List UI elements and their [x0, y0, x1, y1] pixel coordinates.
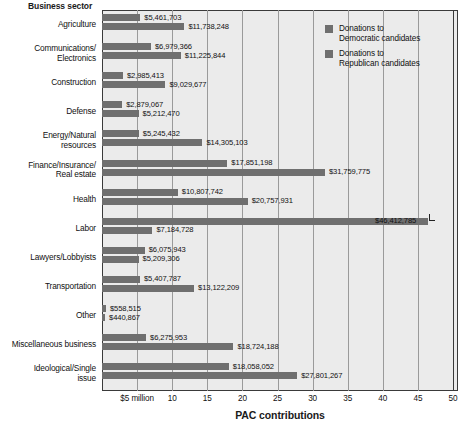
- chart-row: Defense$2,879,067$5,212,470: [0, 100, 466, 129]
- x-tick-label: 30: [308, 394, 317, 403]
- bar-value-label: $2,985,413: [127, 72, 164, 80]
- bar-value-label: $20,757,931: [252, 197, 293, 205]
- bar-democratic: [102, 334, 146, 341]
- bar-value-label: $18,724,188: [237, 343, 278, 351]
- bar-value-label: $18,058,052: [233, 363, 274, 371]
- bar-value-label: $5,212,470: [143, 110, 180, 118]
- bar-republican: [102, 343, 233, 350]
- chart-row: Miscellaneous business$6,275,953$18,724,…: [0, 333, 466, 362]
- bar-value-label: $46,412,785: [375, 217, 416, 225]
- x-tick-label: 40: [378, 394, 387, 403]
- bar-value-label: $31,759,775: [329, 168, 370, 176]
- chart-row: Other$558,515$440,867: [0, 304, 466, 333]
- bar-value-label: $27,801,267: [301, 372, 342, 380]
- category-label: Communications/Electronics: [0, 44, 96, 63]
- y-axis-title: Business sector: [28, 1, 92, 11]
- category-label: Other: [0, 311, 96, 321]
- legend-label-republican-line2: Republican candidates: [339, 59, 455, 69]
- bar-republican: [102, 23, 184, 30]
- pac-contributions-chart: Business sector Agriculture$5,461,703$11…: [0, 0, 466, 432]
- chart-row: Ideological/Singleissue$18,058,052$27,80…: [0, 362, 466, 391]
- bar-democratic: [102, 189, 178, 196]
- bar-value-label: $17,851,198: [231, 159, 272, 167]
- category-label: Labor: [0, 224, 96, 234]
- chart-row: Construction$2,985,413$9,029,677: [0, 71, 466, 100]
- bar-value-label: $6,275,953: [150, 334, 187, 342]
- bar-republican: [102, 139, 202, 146]
- category-label: Agriculture: [0, 20, 96, 30]
- bar-democratic: [102, 72, 123, 79]
- bar-republican: [102, 81, 165, 88]
- category-label: Energy/Naturalresources: [0, 131, 96, 150]
- chart-row: Transportation$5,407,787$13,122,209: [0, 275, 466, 304]
- legend-label-democratic-line2: Democratic candidates: [339, 34, 455, 44]
- bar-value-label: $11,225,844: [185, 52, 226, 60]
- bar-value-label: $440,867: [109, 314, 140, 322]
- chart-legend: Donations to Democratic candidates Donat…: [325, 24, 455, 74]
- x-tick-label: 20: [238, 394, 247, 403]
- legend-swatch-republican-icon: [325, 50, 333, 58]
- chart-row: Health$10,807,742$20,757,931: [0, 188, 466, 217]
- chart-row: Finance/Insurance/Real estate$17,851,198…: [0, 159, 466, 188]
- bar-value-label: $6,075,943: [149, 246, 186, 254]
- category-label: Ideological/Singleissue: [0, 364, 96, 383]
- bar-republican: [102, 285, 194, 292]
- x-tick-label: 50: [449, 394, 458, 403]
- bar-democratic: [102, 43, 151, 50]
- bar-democratic: [102, 247, 145, 254]
- bar-democratic: [102, 276, 140, 283]
- bar-value-label: $5,407,787: [144, 275, 181, 283]
- bar-republican: [102, 110, 139, 117]
- bar-value-label: $558,515: [110, 305, 141, 313]
- bar-value-label: $13,122,209: [198, 284, 239, 292]
- legend-label-democratic-line1: Donations to: [339, 24, 455, 34]
- value-leader-line: [429, 214, 435, 221]
- x-tick-label: 15: [203, 394, 212, 403]
- bar-value-label: $2,879,067: [126, 101, 163, 109]
- category-label: Health: [0, 195, 96, 205]
- chart-row: Lawyers/Lobbyists$6,075,943$5,209,306: [0, 246, 466, 275]
- category-label: Construction: [0, 78, 96, 88]
- legend-label-republican-line1: Donations to: [339, 49, 455, 59]
- x-axis-title: PAC contributions: [102, 409, 458, 421]
- bar-value-label: $6,979,366: [155, 43, 192, 51]
- category-label: Lawyers/Lobbyists: [0, 253, 96, 263]
- bar-republican: [102, 372, 297, 379]
- bar-republican: [102, 256, 139, 263]
- bar-democratic: [102, 363, 229, 370]
- bar-republican: [102, 52, 181, 59]
- bar-value-label: $5,461,703: [144, 14, 181, 22]
- bar-value-label: $5,209,306: [143, 255, 180, 263]
- bar-republican: [102, 314, 105, 321]
- category-label: Defense: [0, 107, 96, 117]
- bar-democratic: [102, 101, 122, 108]
- category-label: Miscellaneous business: [0, 340, 96, 350]
- bar-republican: [102, 227, 152, 234]
- bar-value-label: $9,029,677: [169, 81, 206, 89]
- chart-row: Energy/Naturalresources$5,245,432$14,305…: [0, 129, 466, 158]
- x-tick-label: 35: [343, 394, 352, 403]
- category-label: Finance/Insurance/Real estate: [0, 161, 96, 180]
- x-tick-label: 45: [413, 394, 422, 403]
- bar-value-label: $10,807,742: [182, 188, 223, 196]
- bar-democratic: [102, 160, 227, 167]
- bar-value-label: $7,184,728: [156, 226, 193, 234]
- bar-value-label: $5,245,432: [143, 130, 180, 138]
- bar-democratic: [102, 305, 106, 312]
- legend-item-democratic: Donations to Democratic candidates: [325, 24, 455, 43]
- x-tick-label: $5 million: [120, 394, 154, 403]
- legend-swatch-democratic-icon: [325, 25, 333, 33]
- x-tick-label: 10: [168, 394, 177, 403]
- bar-value-label: $14,305,103: [206, 139, 247, 147]
- bar-value-label: $11,738,248: [188, 23, 229, 31]
- bar-democratic: [102, 130, 139, 137]
- bar-democratic: [102, 14, 140, 21]
- bar-republican: [102, 198, 248, 205]
- bar-republican: [102, 169, 325, 176]
- category-label: Transportation: [0, 282, 96, 292]
- legend-item-republican: Donations to Republican candidates: [325, 49, 455, 68]
- chart-row: Labor$46,412,785$7,184,728: [0, 217, 466, 246]
- x-tick-label: 25: [273, 394, 282, 403]
